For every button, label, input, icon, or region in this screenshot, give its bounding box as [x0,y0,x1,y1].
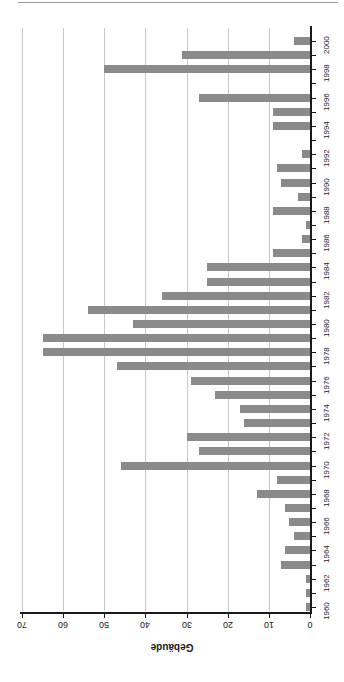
bar [285,546,310,554]
category-tick [312,197,316,198]
category-tick [312,494,316,495]
category-tick-label: 1980 [322,319,331,337]
value-tick-label: 70 [10,620,34,630]
bar [187,433,310,441]
gridline [104,28,105,611]
value-tick [22,614,23,618]
value-tick [187,614,188,618]
bar [182,51,310,59]
category-tick [312,55,316,56]
bar [273,207,310,215]
bar [121,462,310,470]
category-tick-label: 1982 [322,291,331,309]
category-tick [312,352,316,353]
bar [298,193,310,201]
bar [244,419,310,427]
bar [273,122,310,130]
page-top-rule [18,2,338,3]
category-tick [312,409,316,410]
bar [43,348,310,356]
bar [240,405,310,413]
category-tick [312,522,316,523]
bar [289,518,310,526]
category-tick-label: 1966 [322,517,331,535]
bar [302,150,310,158]
value-tick [63,614,64,618]
value-tick [145,614,146,618]
category-axis-line [310,26,312,613]
bar [302,235,310,243]
value-tick-label: 60 [51,620,75,630]
bar [294,532,310,540]
category-tick-label: 1992 [322,149,331,167]
category-tick-label: 1990 [322,178,331,196]
category-tick [312,183,316,184]
bar [277,476,310,484]
bar [199,447,310,455]
bar [294,37,310,45]
bar [281,561,310,569]
category-tick-label: 1978 [322,348,331,366]
category-tick [312,466,316,467]
gridline [22,28,23,611]
category-tick [312,536,316,537]
category-tick [312,211,316,212]
value-tick-label: 10 [257,620,281,630]
category-tick-label: 1974 [322,404,331,422]
category-tick [312,112,316,113]
category-tick [312,480,316,481]
value-tick-label: 40 [133,620,157,630]
category-tick [312,154,316,155]
category-tick-label: 1986 [322,234,331,252]
category-tick [312,98,316,99]
category-tick [312,253,316,254]
category-tick [312,593,316,594]
category-tick-label: 1996 [322,93,331,111]
value-tick-label: 20 [216,620,240,630]
category-tick [312,366,316,367]
category-tick [312,607,316,608]
bar [191,377,310,385]
category-tick-label: 2000 [322,36,331,54]
value-tick [310,614,311,618]
category-tick [312,225,316,226]
bar [257,490,310,498]
category-tick [312,239,316,240]
category-tick [312,267,316,268]
category-tick [312,168,316,169]
category-tick-label: 1976 [322,376,331,394]
bar [43,334,310,342]
category-tick [312,550,316,551]
category-tick [312,565,316,566]
chart-page: 1960196219641966196819701972197419761978… [0,0,344,682]
category-tick [312,282,316,283]
bar [207,278,310,286]
category-tick [312,437,316,438]
category-tick-label: 1968 [322,489,331,507]
bar [88,306,310,314]
category-tick [312,69,316,70]
category-tick-label: 1962 [322,574,331,592]
bar [215,391,310,399]
value-tick [269,614,270,618]
gridline [63,28,64,611]
plot-area [22,28,310,611]
value-tick-label: 30 [175,620,199,630]
category-tick [312,296,316,297]
category-tick [312,140,316,141]
category-tick [312,83,316,84]
bar [273,108,310,116]
category-tick [312,324,316,325]
category-tick [312,451,316,452]
category-tick-label: 1960 [322,602,331,620]
bar [281,179,310,187]
category-tick [312,579,316,580]
bar [104,65,310,73]
category-tick-label: 1984 [322,263,331,281]
category-tick-label: 1994 [322,121,331,139]
value-tick [228,614,229,618]
value-tick [104,614,105,618]
category-tick [312,310,316,311]
category-tick [312,338,316,339]
bar [162,292,310,300]
